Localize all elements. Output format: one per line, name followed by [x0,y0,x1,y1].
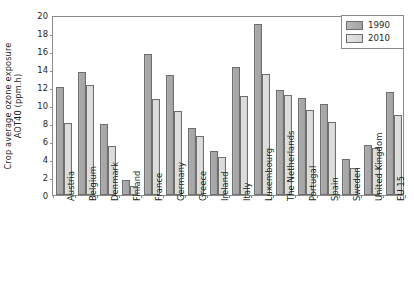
bar-2010-italy [240,96,248,195]
bar-1990-germany [166,75,174,195]
y-axis-tick-mark [50,179,53,180]
y-axis-tick-mark [50,143,53,144]
bar-1990-united-kingdom [364,145,372,195]
x-axis-tick-label: Denmark [111,162,120,201]
ozone-exposure-bar-chart: Crop average ozone exposure AOT40 (ppm.h… [0,0,414,286]
x-axis-tick-label: Austria [67,171,76,201]
y-axis-tick-label: 8 [30,120,48,128]
bar-1990-sweden [342,159,350,195]
bar-1990-spain [320,104,328,195]
legend-swatch-1990-icon [346,21,363,30]
legend-entry-2010: 2010 [346,32,399,45]
bar-1990-france [144,54,152,195]
y-axis-tick-mark [50,35,53,36]
x-axis-tick-label: Finland [133,170,142,201]
x-axis-tick-label: United Kingdom [375,133,384,201]
y-axis-tick-label: 0 [30,192,48,200]
x-axis-tick-label: Belgium [89,166,98,201]
x-axis-tick-label: Germany [177,162,186,201]
bar-1990-finland [122,180,130,195]
bar-1990-greece [188,128,196,196]
y-axis-tick-label: 10 [30,102,48,110]
x-axis-tick-label: Luxembourg [265,148,274,201]
bar-1990-ireland [210,151,218,195]
legend-entry-1990: 1990 [346,19,399,32]
y-axis-tick-label: 6 [30,138,48,146]
x-axis-tick-label: The Netherlands [287,130,296,201]
y-axis-tick-label: 4 [30,156,48,164]
bar-1990-eu-15 [386,92,394,196]
x-axis-tick-label: EU 15 [397,176,406,201]
x-axis-tick-label: Ireland [221,171,230,201]
bar-1990-austria [56,87,64,195]
x-axis-tick-label: Greece [199,171,208,201]
y-axis-tick-mark [50,107,53,108]
x-axis-tick-label: France [155,173,164,201]
y-axis-tick-label: 14 [30,66,48,74]
y-axis-title-line-1: Crop average ozone exposure [3,42,13,169]
y-axis-tick-label: 18 [30,30,48,38]
y-axis-tick-mark [50,89,53,90]
y-axis-tick-label: 2 [30,174,48,182]
legend-swatch-2010-icon [346,34,363,43]
y-axis-tick-labels: 20181614121086420 [30,0,48,286]
y-axis-tick-mark [50,71,53,72]
y-axis-tick-label: 12 [30,84,48,92]
x-axis-tick-label: Sweden [353,167,362,201]
bar-1990-italy [232,67,240,195]
y-axis-tick-label: 20 [30,12,48,20]
chart-legend: 1990 2010 [341,15,404,49]
y-axis-title-line-2: AOT40 (ppm.h) [13,42,23,169]
x-axis-tick-label: Italy [243,182,252,201]
bar-1990-luxembourg [254,24,262,195]
x-axis-tick-label: Portugal [309,166,318,201]
legend-label-1990: 1990 [368,21,390,30]
y-axis-tick-label: 16 [30,48,48,56]
bar-1990-portugal [298,98,306,195]
bar-1990-the-netherlands [276,90,284,195]
y-axis-tick-mark [50,53,53,54]
legend-label-2010: 2010 [368,34,390,43]
bar-1990-denmark [100,124,108,195]
x-axis-tick-label: Spain [331,177,340,201]
y-axis-tick-mark [50,161,53,162]
y-axis-title: Crop average ozone exposure AOT40 (ppm.h… [0,16,26,196]
x-axis-tick-mark [53,195,54,198]
y-axis-tick-mark [50,125,53,126]
bar-1990-belgium [78,72,86,195]
